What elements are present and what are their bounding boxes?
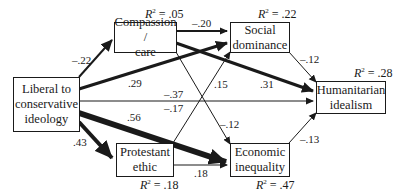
node-economic-line2: inequality — [235, 160, 286, 175]
coef-ideology-protestant: .43 — [73, 136, 87, 148]
coef-ideology-compassion: –.22 — [72, 54, 91, 66]
coef-compassion-social-dominance: –.20 — [192, 17, 211, 29]
node-social-dominance: Social dominance — [230, 22, 290, 53]
r2-social-dominance: R2 = .22 — [258, 7, 297, 22]
node-humanitarian-line2: idealism — [317, 98, 386, 113]
node-protestant-line1: Protestant — [120, 145, 170, 160]
coef-ideology-humanitarian: –.37 — [164, 88, 183, 100]
r2-compassion: R2 = .05 — [145, 7, 184, 22]
node-economic: Economic inequality — [230, 143, 290, 177]
node-ideology-line3: ideology — [15, 112, 78, 127]
node-humanitarian: Humanitarian idealism — [316, 81, 386, 114]
node-ideology-line1: Liberal to — [15, 82, 78, 97]
coef-protestant-economic: .18 — [194, 167, 208, 179]
r2-economic: R2 = .47 — [256, 178, 295, 193]
coef-economic-humanitarian: –.13 — [300, 133, 319, 145]
node-compassion: Compassion / care — [114, 22, 177, 53]
node-ideology-line2: conservative — [15, 97, 78, 112]
node-economic-line1: Economic — [235, 145, 286, 160]
coef-compassion-humanitarian: .31 — [260, 78, 274, 90]
node-social-dominance-line2: dominance — [233, 38, 288, 53]
node-ideology: Liberal to conservative ideology — [13, 77, 80, 132]
r2-protestant: R2 = .18 — [140, 178, 179, 193]
coef-social-dominance-humanitarian: –.12 — [300, 53, 319, 65]
node-protestant-line2: ethic — [120, 160, 170, 175]
node-compassion-line2: care — [115, 45, 177, 60]
node-social-dominance-line1: Social — [233, 23, 288, 38]
node-humanitarian-line1: Humanitarian — [317, 83, 386, 98]
coef-ideology-social-dominance: .29 — [128, 77, 142, 89]
coef-compassion-economic: –.12 — [220, 118, 239, 130]
coef-protestant-social-dominance: .15 — [214, 78, 228, 90]
coef-ideology-economic: .56 — [127, 111, 141, 123]
coef-protestant-humanitarian: –.17 — [164, 102, 183, 114]
r2-humanitarian: R2 = .28 — [354, 66, 393, 81]
node-protestant: Protestant ethic — [116, 143, 174, 177]
